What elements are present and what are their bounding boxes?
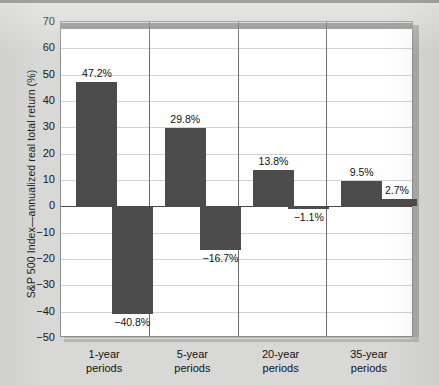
x-axis-category-label: 35-yearperiods bbox=[314, 347, 424, 375]
gridline bbox=[61, 338, 412, 339]
bar bbox=[376, 199, 417, 206]
y-axis-tick-label: 60 bbox=[3, 41, 55, 53]
panel-divider bbox=[326, 22, 327, 336]
y-axis-tick-label: 0 bbox=[3, 199, 55, 211]
category-label-line2: periods bbox=[314, 361, 424, 375]
y-axis-tick-label: 70 bbox=[3, 15, 55, 27]
bar bbox=[112, 206, 153, 313]
y-axis-tick-label: −20 bbox=[3, 252, 55, 264]
y-axis-tick-label: −50 bbox=[3, 331, 55, 343]
bar-value-label: 29.8% bbox=[170, 113, 200, 125]
bar-value-label: 2.7% bbox=[385, 184, 409, 196]
bar-value-label: 13.8% bbox=[259, 155, 289, 167]
panel-divider bbox=[238, 22, 239, 336]
y-axis-tick-label: 30 bbox=[3, 120, 55, 132]
bar-value-label: 47.2% bbox=[82, 67, 112, 79]
chart-figure: S&P 500 Index—annualized real total retu… bbox=[0, 0, 439, 385]
bar bbox=[200, 206, 241, 250]
bar-value-label: −40.8% bbox=[114, 316, 150, 328]
y-axis-tick-labels: 706050403020100−10−20−30−40−50 bbox=[0, 21, 55, 337]
bar-value-label: −16.7% bbox=[203, 252, 239, 264]
y-axis-tick-label: 10 bbox=[3, 173, 55, 185]
category-label-line1: 35-year bbox=[314, 347, 424, 361]
y-axis-tick-label: 50 bbox=[3, 68, 55, 80]
bar bbox=[165, 128, 206, 206]
y-axis-tick-label: −30 bbox=[3, 278, 55, 290]
y-axis-tick-label: 20 bbox=[3, 147, 55, 159]
plot-dropshadow-right bbox=[413, 25, 419, 341]
plot-area: 47.2%−40.8%29.8%−16.7%13.8%−1.1%9.5%2.7% bbox=[60, 21, 413, 337]
y-axis-tick-label: −40 bbox=[3, 305, 55, 317]
y-axis-tick-label: −10 bbox=[3, 226, 55, 238]
bar-value-label: 9.5% bbox=[350, 166, 374, 178]
bar bbox=[253, 170, 294, 206]
bar-value-label: −1.1% bbox=[294, 211, 324, 223]
plot-inset-shadow bbox=[61, 22, 412, 29]
bar bbox=[76, 82, 117, 206]
gridline bbox=[61, 22, 412, 23]
y-axis-tick-label: 40 bbox=[3, 94, 55, 106]
bar bbox=[288, 206, 329, 209]
gridline bbox=[61, 75, 412, 76]
gridline bbox=[61, 48, 412, 49]
